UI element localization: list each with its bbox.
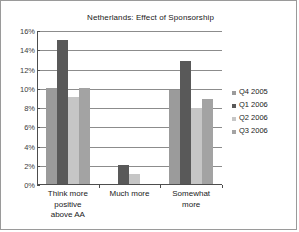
- legend-swatch-icon: [232, 117, 236, 121]
- y-axis-tick-mark: [37, 89, 40, 90]
- legend-item[interactable]: Q2 2006: [232, 113, 294, 126]
- y-axis-tick-label: 16%: [5, 27, 35, 36]
- x-axis-category-line: more: [160, 200, 222, 211]
- x-axis-category-line: Somewhat: [160, 189, 222, 200]
- bar-group: [160, 31, 222, 184]
- x-axis-tick-mark: [222, 185, 223, 188]
- x-axis-category-label: Think morepositiveabove AA: [37, 189, 99, 221]
- legend-item[interactable]: Q4 2005: [232, 87, 294, 100]
- bar: [169, 90, 180, 184]
- chart-frame: Netherlands: Effect of Sponsorship 16%14…: [0, 0, 297, 230]
- chart-legend: Q4 2005Q1 2006Q2 2006Q3 2006: [232, 87, 294, 139]
- legend-swatch-icon: [232, 91, 236, 95]
- y-axis-tick-label: 6%: [5, 123, 35, 132]
- y-axis-tick-mark: [37, 70, 40, 71]
- bar: [191, 108, 202, 184]
- y-axis-tick-mark: [37, 147, 40, 148]
- chart-title: Netherlands: Effect of Sponsorship: [1, 13, 299, 22]
- legend-item-label: Q1 2006: [239, 100, 268, 109]
- y-axis-tick-label: 8%: [5, 104, 35, 113]
- y-axis-tick-mark: [37, 108, 40, 109]
- bar: [118, 165, 129, 184]
- y-axis-tick-mark: [37, 185, 40, 186]
- legend-swatch-icon: [232, 104, 236, 108]
- y-axis-tick-label: 12%: [5, 65, 35, 74]
- x-axis-category-label: Much more: [99, 189, 161, 200]
- x-axis-category-line: above AA: [37, 210, 99, 221]
- bar: [79, 88, 90, 184]
- x-axis-line: [37, 184, 222, 185]
- bar: [46, 88, 57, 184]
- bar: [57, 40, 68, 184]
- legend-item-label: Q2 2006: [239, 113, 268, 122]
- x-axis-tick-mark: [99, 185, 100, 188]
- y-axis-tick-label: 10%: [5, 84, 35, 93]
- legend-swatch-icon: [232, 130, 236, 134]
- y-axis-labels: 16%14%12%10%8%6%4%2%0%: [3, 31, 35, 185]
- x-axis-category-line: Think more: [37, 189, 99, 200]
- legend-item-label: Q3 2006: [239, 126, 268, 135]
- y-axis-tick-mark: [37, 50, 40, 51]
- y-axis-tick-label: 2%: [5, 161, 35, 170]
- y-axis-tick-mark: [37, 31, 40, 32]
- legend-item[interactable]: Q3 2006: [232, 126, 294, 139]
- x-axis-category-line: Much more: [99, 189, 161, 200]
- y-axis-tick-label: 0%: [5, 181, 35, 190]
- x-axis-category-line: positive: [37, 200, 99, 211]
- bar-group: [99, 31, 161, 184]
- bar: [129, 174, 140, 184]
- y-axis-tick-mark: [37, 127, 40, 128]
- bar: [180, 61, 191, 184]
- bar-group: [37, 31, 99, 184]
- y-axis-tick-label: 14%: [5, 46, 35, 55]
- plot-area: [37, 31, 222, 185]
- legend-item-label: Q4 2005: [239, 87, 268, 96]
- legend-item[interactable]: Q1 2006: [232, 100, 294, 113]
- y-axis-tick-label: 4%: [5, 142, 35, 151]
- bar: [68, 97, 79, 184]
- bar: [202, 99, 213, 184]
- x-axis-category-label: Somewhatmore: [160, 189, 222, 210]
- x-axis-tick-mark: [160, 185, 161, 188]
- y-axis-tick-mark: [37, 166, 40, 167]
